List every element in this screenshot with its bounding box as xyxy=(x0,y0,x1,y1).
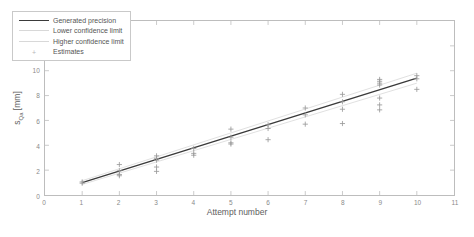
x-tick-label: 7 xyxy=(304,199,308,206)
x-tick-label: 5 xyxy=(229,199,233,206)
legend-item-label: Lower confidence limit xyxy=(51,27,122,34)
x-tick-label: 4 xyxy=(192,199,196,206)
x-tick-label: 9 xyxy=(378,199,382,206)
y-axis-title-main: s xyxy=(12,121,22,125)
y-tick-label: 0 xyxy=(20,193,40,200)
x-tick-label: 11 xyxy=(452,199,459,206)
legend-line-swatch-icon xyxy=(17,15,51,25)
x-tick-label: 8 xyxy=(341,199,345,206)
y-axis-title: sQa [mm] xyxy=(12,48,24,168)
chart-figure: 01234567891011 02468101214 Attempt numbe… xyxy=(0,0,474,237)
estimate-markers-layer xyxy=(80,73,420,186)
legend-item: +Estimates xyxy=(17,47,124,58)
legend-item-label: Higher confidence limit xyxy=(51,38,124,45)
chart-legend: Generated precisionLower confidence limi… xyxy=(12,11,131,61)
legend-line-swatch-icon xyxy=(17,36,51,46)
legend-line-swatch-icon xyxy=(17,26,51,36)
legend-item-label: Generated precision xyxy=(51,17,116,24)
legend-plus-marker-icon: + xyxy=(17,47,51,57)
legend-item: Generated precision xyxy=(17,15,124,26)
x-tick-label: 2 xyxy=(117,199,121,206)
x-tick-label: 1 xyxy=(80,199,84,206)
y-axis-title-subscript: Qa xyxy=(18,113,24,121)
data-series-layer xyxy=(82,73,417,184)
x-tick-label: 10 xyxy=(414,199,421,206)
x-axis-title: Attempt number xyxy=(0,207,474,217)
x-tick-label: 0 xyxy=(42,199,46,206)
legend-item: Higher confidence limit xyxy=(17,36,124,47)
legend-item-label: Estimates xyxy=(51,48,84,55)
y-axis-title-unit: [mm] xyxy=(12,91,22,112)
x-tick-label: 6 xyxy=(266,199,270,206)
y-tick-label: 2 xyxy=(20,167,40,174)
x-tick-label: 3 xyxy=(154,199,158,206)
legend-item: Lower confidence limit xyxy=(17,26,124,37)
